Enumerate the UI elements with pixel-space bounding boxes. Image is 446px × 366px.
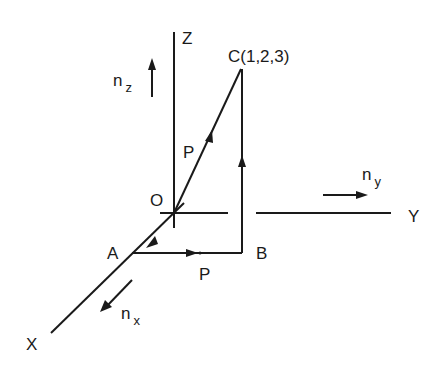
arrowhead-bc — [238, 155, 246, 167]
x-axis-label: X — [26, 335, 37, 354]
arrowhead-oc — [205, 130, 213, 143]
point-c-label: C(1,2,3) — [228, 47, 289, 66]
tick-mark-ab — [199, 252, 202, 255]
ny-arrowhead-icon — [356, 191, 368, 199]
point-a-label: A — [107, 244, 119, 263]
vector-diagram: Z Y X O C(1,2,3) A B P P nz ny nx — [0, 0, 446, 366]
nx-arrow — [106, 280, 132, 307]
path-label-horizontal: P — [199, 265, 210, 284]
nx-label: nx — [121, 304, 140, 328]
point-b-label: B — [256, 244, 267, 263]
ny-label: ny — [362, 165, 381, 189]
path-label-diagonal: P — [183, 143, 194, 162]
arrowhead-ab — [186, 249, 198, 257]
nz-arrowhead-icon — [148, 58, 156, 70]
z-axis-label: Z — [182, 29, 192, 48]
y-axis-label: Y — [408, 207, 419, 226]
nz-label: nz — [113, 71, 132, 95]
origin-label: O — [150, 191, 163, 210]
x-axis — [51, 203, 184, 333]
